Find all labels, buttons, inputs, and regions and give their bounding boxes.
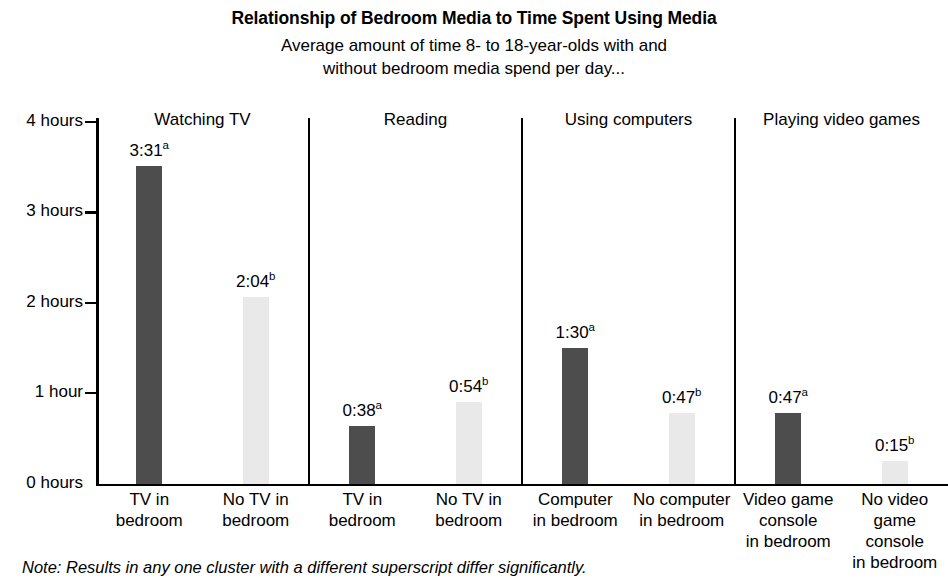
bar-value-text: 3:31	[130, 141, 163, 160]
chart-note: Note: Results in any one cluster with a …	[22, 558, 587, 577]
bar-value-text: 0:54	[449, 377, 482, 396]
bar	[136, 166, 162, 484]
bar-value-text: 0:47	[769, 388, 802, 407]
bar	[882, 461, 908, 484]
x-axis-category-label-line: in bedroom	[522, 510, 629, 531]
bar-value-text: 0:47	[662, 388, 695, 407]
bar-value-label: 2:04b	[203, 272, 310, 292]
bar-value-label: 0:47a	[735, 388, 842, 408]
bar-value-superscript: a	[589, 321, 595, 333]
x-axis-category-label: Video gameconsolein bedroom	[735, 489, 842, 552]
y-axis-tick-label: 1 hour	[35, 382, 83, 402]
y-axis-tick	[85, 302, 96, 305]
x-axis-category-label: No TV inbedroom	[416, 489, 523, 531]
chart-subtitle-line-2: without bedroom media spend per day...	[0, 57, 948, 80]
cluster-header: Playing video games	[735, 110, 948, 130]
x-axis-category-label: No computerin bedroom	[629, 489, 736, 531]
x-axis-category-label-line: Video game	[735, 489, 842, 510]
x-axis-category-label-line: bedroom	[416, 510, 523, 531]
bar-value-label: 0:54b	[416, 377, 523, 397]
bar-value-text: 0:38	[343, 401, 376, 420]
y-axis-tick-label: 4 hours	[26, 111, 83, 131]
bar-value-superscript: a	[163, 139, 169, 151]
cluster-divider	[308, 118, 311, 484]
chart-subtitle: Average amount of time 8- to 18-year-old…	[0, 34, 948, 80]
bar-value-superscript: a	[376, 400, 382, 412]
x-axis-category-label-line: game	[842, 510, 948, 531]
x-axis-category-label-line: in bedroom	[629, 510, 736, 531]
bar-value-text: 2:04	[236, 272, 269, 291]
cluster-header: Watching TV	[96, 110, 309, 130]
chart-subtitle-line-1: Average amount of time 8- to 18-year-old…	[0, 34, 948, 57]
bar-value-text: 0:15	[875, 436, 908, 455]
bar	[243, 297, 269, 484]
x-axis-category-label-line: No computer	[629, 489, 736, 510]
bar-value-label: 3:31a	[96, 141, 203, 161]
x-axis-category-label-line: in bedroom	[842, 552, 948, 573]
cluster-divider	[521, 118, 524, 484]
x-axis-category-label-line: No video	[842, 489, 948, 510]
plot-area: Watching TV3:31a2:04bReading0:38a0:54bUs…	[96, 118, 948, 486]
bar-value-label: 0:47b	[629, 388, 736, 408]
bar-value-label: 1:30a	[522, 323, 629, 343]
x-axis-category-label: TV inbedroom	[309, 489, 416, 531]
x-axis-category-label: No TV inbedroom	[203, 489, 310, 531]
x-axis-category-label-line: console	[842, 531, 948, 552]
x-axis-category-label: TV inbedroom	[96, 489, 203, 531]
y-axis-tick-label: 3 hours	[26, 201, 83, 221]
x-axis-category-label-line: TV in	[96, 489, 203, 510]
y-axis-line	[96, 118, 99, 486]
bar-value-superscript: b	[695, 386, 701, 398]
bar	[669, 413, 695, 484]
y-axis-tick-label: 2 hours	[26, 292, 83, 312]
x-axis-category-label-line: Computer	[522, 489, 629, 510]
cluster-header: Reading	[309, 110, 522, 130]
bar	[775, 413, 801, 484]
bar-value-superscript: b	[908, 434, 914, 446]
chart-figure: Relationship of Bedroom Media to Time Sp…	[0, 0, 948, 578]
x-axis-category-label-line: bedroom	[203, 510, 310, 531]
x-axis-category-label-line: bedroom	[309, 510, 416, 531]
y-axis-tick	[85, 121, 96, 124]
cluster-header: Using computers	[522, 110, 735, 130]
x-axis-category-label: No videogameconsolein bedroom	[842, 489, 948, 573]
bar-value-label: 0:38a	[309, 401, 416, 421]
bar-value-label: 0:15b	[842, 436, 948, 456]
bar	[349, 426, 375, 483]
x-axis-category-label-line: No TV in	[416, 489, 523, 510]
bar-value-superscript: b	[269, 270, 275, 282]
bar-value-superscript: a	[802, 386, 808, 398]
y-axis-tick-label: 0 hours	[26, 473, 83, 493]
x-axis-category-label-line: in bedroom	[735, 531, 842, 552]
bar	[562, 348, 588, 484]
y-axis-tick	[85, 211, 96, 214]
chart-title: Relationship of Bedroom Media to Time Sp…	[0, 8, 948, 29]
y-axis-tick	[85, 392, 96, 395]
x-axis-category-label-line: bedroom	[96, 510, 203, 531]
y-axis-labels: 4 hours3 hours2 hours1 hour0 hours	[0, 118, 83, 486]
x-axis-category-label-line: TV in	[309, 489, 416, 510]
x-axis-category-label-line: console	[735, 510, 842, 531]
cluster-divider	[734, 118, 737, 484]
x-axis-category-label-line: No TV in	[203, 489, 310, 510]
bar-value-superscript: b	[482, 376, 488, 388]
x-axis-category-label: Computerin bedroom	[522, 489, 629, 531]
bar-value-text: 1:30	[556, 323, 589, 342]
bar	[456, 402, 482, 483]
